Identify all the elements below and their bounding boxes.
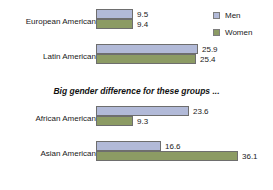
category-label-european-american: European American [26,17,96,27]
bar-value-men-african-american: 23.6 [193,107,209,116]
bar-group-latin-american: Latin American 25.9 25.4 [0,43,273,73]
bars-latin-american: 25.9 25.4 [96,44,218,64]
bar-value-women-latin-american: 25.4 [200,55,216,64]
bars-african-american: 23.6 9.3 [96,106,209,126]
bar-men-african-american [96,106,189,116]
bar-row-men: 25.9 [96,44,218,54]
bar-row-men: 9.5 [96,9,148,19]
bar-row-women: 25.4 [96,54,218,64]
bar-value-men-asian-american: 16.6 [165,142,181,151]
category-label-african-american: African American [36,114,96,124]
bar-value-women-european-american: 9.4 [137,20,148,29]
bar-women-latin-american [96,54,196,64]
bar-value-women-african-american: 9.3 [137,117,148,126]
category-label-latin-american: Latin American [43,52,96,62]
bar-group-european-american: European American 9.5 9.4 [0,8,273,38]
bar-row-women: 9.4 [96,19,148,29]
bar-value-women-asian-american: 36.1 [242,152,258,161]
upper-panel: European American 9.5 9.4 Latin American… [0,8,273,78]
bar-row-men: 23.6 [96,106,209,116]
bar-men-european-american [96,9,133,19]
grouped-bar-chart: Men Women European American 9.5 9.4 Lati… [0,0,273,190]
category-label-asian-american: Asian American [40,149,96,159]
bar-group-african-american: African American 23.6 9.3 [0,105,273,135]
panel-caption: Big gender difference for these groups .… [0,86,273,97]
bar-row-men: 16.6 [96,141,258,151]
bar-value-men-european-american: 9.5 [137,10,148,19]
bar-women-european-american [96,19,133,29]
bars-european-american: 9.5 9.4 [96,9,148,29]
bar-group-asian-american: Asian American 16.6 36.1 [0,140,273,170]
bar-row-women: 9.3 [96,116,209,126]
lower-panel: African American 23.6 9.3 Asian American… [0,105,273,185]
bar-women-asian-american [96,151,238,161]
bars-asian-american: 16.6 36.1 [96,141,258,161]
bar-value-men-latin-american: 25.9 [202,45,218,54]
bar-men-asian-american [96,141,161,151]
bar-row-women: 36.1 [96,151,258,161]
bar-men-latin-american [96,44,198,54]
bar-women-african-american [96,116,133,126]
